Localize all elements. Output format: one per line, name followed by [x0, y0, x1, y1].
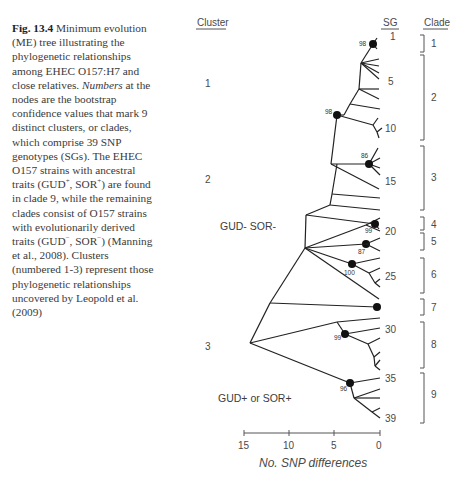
sg-label: 25 — [385, 271, 397, 282]
bootstrap-label: 99 — [334, 334, 342, 341]
node-dot — [348, 260, 356, 268]
cluster-3-label: 3 — [205, 341, 211, 352]
clade-label: 4 — [431, 219, 437, 230]
clade-label: 5 — [431, 236, 437, 247]
clade-label: 3 — [431, 172, 437, 183]
clade-header: Clade — [424, 17, 451, 28]
trait-label-derived: GUD- SOR- — [220, 220, 277, 232]
bootstrap-label: 98 — [325, 108, 333, 115]
clade-brackets — [420, 35, 424, 423]
clade-label: 7 — [431, 302, 437, 313]
sg-label: 15 — [385, 176, 397, 187]
axis-tick-label: 5 — [331, 440, 337, 451]
cluster-header: Cluster — [197, 17, 229, 28]
clade-label: 8 — [431, 339, 437, 350]
bootstrap-label: 100 — [344, 269, 355, 276]
sg-label: 20 — [385, 226, 397, 237]
bootstrap-label: 87 — [358, 248, 366, 255]
axis-tick-label: 15 — [238, 440, 250, 451]
clade-label: 6 — [431, 269, 437, 280]
node-dot — [341, 330, 349, 338]
bootstrap-label: 96 — [340, 385, 348, 392]
sg-header: SG — [383, 17, 398, 28]
bootstrap-label: 98 — [359, 40, 367, 47]
sg-label: 30 — [385, 324, 397, 335]
axis-tick-label: 0 — [376, 440, 382, 451]
sg-label: 5 — [388, 76, 394, 87]
phylogenetic-tree: Cluster SG Clade 1 2 3 GUD- SOR- GUD+ or… — [0, 0, 465, 479]
sg-label: 1 — [390, 31, 396, 42]
cluster-2-label: 2 — [205, 174, 211, 185]
clade-5-branch — [366, 244, 380, 251]
node-dot — [373, 303, 381, 311]
clade-label: 9 — [431, 389, 437, 400]
bootstrap-label: 86 — [361, 152, 369, 159]
x-axis — [244, 430, 380, 436]
cluster-1-label: 1 — [205, 78, 211, 89]
node-dot — [369, 40, 377, 48]
axis-title: No. SNP differences — [259, 456, 367, 470]
sg-label: 10 — [385, 123, 397, 134]
clade-label: 1 — [431, 38, 437, 49]
node-dot — [365, 160, 373, 168]
node-dot — [333, 111, 341, 119]
bootstrap-label: 99 — [365, 227, 373, 234]
sg-label: 35 — [385, 373, 397, 384]
axis-tick-label: 10 — [283, 440, 295, 451]
sg-label: 39 — [385, 413, 397, 424]
clade-label: 2 — [431, 92, 437, 103]
trait-label-ancestral: GUD+ or SOR+ — [218, 392, 292, 404]
